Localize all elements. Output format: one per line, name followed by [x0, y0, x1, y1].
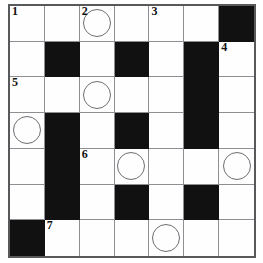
grid-cell[interactable]: 2: [80, 6, 115, 42]
crossword-grid[interactable]: 1234567: [8, 4, 256, 258]
grid-cell[interactable]: [10, 185, 45, 221]
grid-block-cell: [45, 113, 80, 149]
grid-block-cell: [45, 42, 80, 78]
grid-cell[interactable]: 1: [10, 6, 45, 42]
grid-block-cell: [115, 42, 150, 78]
grid-cell[interactable]: [149, 185, 184, 221]
cell-number: 1: [12, 6, 18, 18]
cell-circle-marker: [223, 152, 251, 180]
grid-cell[interactable]: [149, 42, 184, 78]
cell-circle-marker: [117, 152, 145, 180]
cell-circle-marker: [152, 224, 180, 252]
grid-cell[interactable]: [149, 149, 184, 185]
crossword-puzzle: 1234567: [0, 0, 263, 263]
cell-number: 2: [82, 6, 88, 18]
grid-cell[interactable]: [149, 220, 184, 256]
grid-cell[interactable]: 5: [10, 77, 45, 113]
grid-cell[interactable]: [149, 77, 184, 113]
cell-number: 4: [221, 42, 227, 54]
grid-cell[interactable]: [219, 113, 254, 149]
grid-cell[interactable]: 6: [80, 149, 115, 185]
grid-block-cell: [10, 220, 45, 256]
grid-cell[interactable]: [80, 113, 115, 149]
grid-cell[interactable]: [115, 77, 150, 113]
grid-cell[interactable]: [10, 149, 45, 185]
cell-circle-marker: [13, 116, 41, 144]
grid-cell[interactable]: [219, 185, 254, 221]
grid-block-cell: [45, 185, 80, 221]
grid-cell[interactable]: [80, 42, 115, 78]
grid-cell[interactable]: 3: [149, 6, 184, 42]
grid-cell[interactable]: [219, 77, 254, 113]
grid-cell[interactable]: [80, 185, 115, 221]
grid-cell[interactable]: [184, 6, 219, 42]
grid-block-cell: [184, 185, 219, 221]
grid-cell[interactable]: [10, 113, 45, 149]
cell-number: 7: [47, 220, 53, 232]
cell-number: 5: [12, 77, 18, 89]
grid-cell[interactable]: [184, 149, 219, 185]
grid-cell[interactable]: 7: [45, 220, 80, 256]
grid-cell[interactable]: [80, 220, 115, 256]
grid-block-cell: [184, 42, 219, 78]
grid-cell[interactable]: [219, 220, 254, 256]
grid-block-cell: [184, 113, 219, 149]
cell-circle-marker: [83, 81, 111, 109]
grid-cell[interactable]: 4: [219, 42, 254, 78]
cell-number: 6: [82, 149, 88, 161]
grid-block-cell: [115, 185, 150, 221]
grid-cell[interactable]: [149, 113, 184, 149]
grid-cell[interactable]: [45, 77, 80, 113]
grid-cell[interactable]: [115, 149, 150, 185]
grid-cell[interactable]: [184, 220, 219, 256]
grid-block-cell: [219, 6, 254, 42]
grid-cell[interactable]: [115, 6, 150, 42]
grid-cell[interactable]: [115, 220, 150, 256]
grid-block-cell: [184, 77, 219, 113]
cell-number: 3: [151, 6, 157, 18]
grid-cell[interactable]: [219, 149, 254, 185]
grid-cell[interactable]: [80, 77, 115, 113]
grid-cell[interactable]: [10, 42, 45, 78]
grid-cell[interactable]: [45, 6, 80, 42]
grid-block-cell: [45, 149, 80, 185]
grid-block-cell: [115, 113, 150, 149]
